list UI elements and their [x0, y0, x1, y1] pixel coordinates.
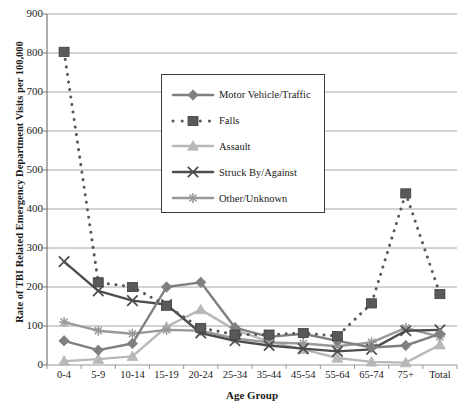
- y-tick-label: 100: [9, 320, 43, 331]
- data-point-triangle: [195, 304, 206, 314]
- data-point-square: [59, 47, 69, 56]
- y-tick-label: 800: [9, 47, 43, 58]
- data-point-diamond: [188, 90, 198, 100]
- legend-swatch-triangle-icon: [170, 136, 216, 156]
- y-tick-label: 600: [9, 125, 43, 136]
- data-point-diamond: [127, 338, 137, 348]
- data-point-square: [230, 330, 240, 339]
- x-tick-label: 25-34: [223, 369, 248, 380]
- data-point-square: [401, 189, 411, 198]
- legend-label: Motor Vehicle/Traffic: [219, 89, 311, 100]
- data-point-square: [367, 299, 377, 308]
- x-tick-label: 15-19: [154, 369, 179, 380]
- legend-item[interactable]: Struck By/Against: [162, 158, 326, 186]
- legend-label: Struck By/Against: [219, 167, 297, 178]
- data-point-square: [332, 332, 342, 341]
- legend-item[interactable]: Other/Unknown: [162, 184, 326, 212]
- x-tick-label: 65-74: [359, 369, 384, 380]
- y-tick-label: 200: [9, 281, 43, 292]
- legend-label: Other/Unknown: [219, 193, 287, 204]
- data-point-square: [264, 330, 274, 339]
- legend-item[interactable]: Motor Vehicle/Traffic: [162, 81, 326, 109]
- data-point-square: [435, 289, 445, 298]
- legend: Motor Vehicle/TrafficFallsAssaultStruck …: [161, 74, 325, 213]
- data-point-diamond: [401, 340, 411, 350]
- y-tick-label: 500: [9, 164, 43, 175]
- y-tick-label: 900: [9, 8, 43, 19]
- data-point-square: [298, 328, 308, 337]
- y-tick-label: 400: [9, 203, 43, 214]
- x-axis-title: Age Group: [47, 389, 457, 401]
- legend-item[interactable]: Assault: [162, 133, 326, 161]
- x-tick-label: 45-54: [291, 369, 316, 380]
- data-point-square: [93, 278, 103, 287]
- y-tick-label: 0: [9, 359, 43, 370]
- legend-label: Assault: [219, 141, 251, 152]
- x-tick-label: 35-44: [257, 369, 282, 380]
- data-point-diamond: [59, 336, 69, 346]
- legend-swatch-star-icon: [170, 188, 216, 208]
- chart-container: Rate of TBI Related Emergency Department…: [0, 0, 463, 414]
- data-point-square: [127, 282, 137, 291]
- legend-label: Falls: [219, 115, 239, 126]
- x-tick-label: 5-9: [91, 369, 105, 380]
- data-point-diamond: [161, 282, 171, 292]
- x-tick-label: 0-4: [57, 369, 71, 380]
- legend-swatch-square-icon: [170, 111, 216, 131]
- legend-swatch-diamond-icon: [170, 85, 216, 105]
- data-point-square: [162, 301, 172, 310]
- legend-item[interactable]: Falls: [162, 107, 326, 135]
- x-tick-label: 20-24: [189, 369, 214, 380]
- y-axis-tick-labels: 9008007006005004003002001000: [0, 0, 43, 414]
- y-tick-label: 700: [9, 86, 43, 97]
- legend-swatch-x-icon: [170, 162, 216, 182]
- y-tick-label: 300: [9, 242, 43, 253]
- x-tick-label: 10-14: [120, 369, 145, 380]
- data-point-square: [188, 116, 198, 125]
- x-tick-label: 55-64: [325, 369, 350, 380]
- x-axis-tick-labels: 0-45-910-1415-1920-2425-3435-4445-5455-6…: [47, 369, 457, 385]
- data-point-square: [196, 323, 206, 332]
- x-tick-label: Total: [429, 369, 450, 380]
- x-tick-label: 75+: [398, 369, 414, 380]
- data-point-diamond: [93, 345, 103, 355]
